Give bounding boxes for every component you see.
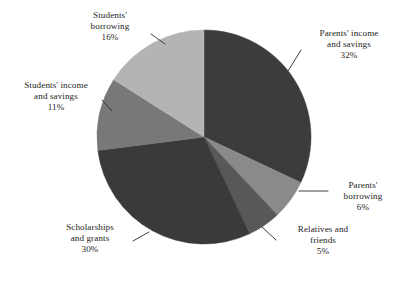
slice-label-line2: and savings — [303, 39, 395, 50]
leader-line-relatives-friends — [262, 227, 276, 240]
slice-value: 32% — [303, 50, 395, 61]
slice-label-students-borrowing: Students' borrowing 16% — [72, 10, 148, 44]
slice-label-parents-borrowing: Parents' borrowing 6% — [330, 180, 396, 214]
slice-label-scholarships-grants: Scholarships and grants 30% — [48, 222, 132, 256]
slice-value: 5% — [281, 246, 365, 257]
slice-label-line2: and grants — [48, 233, 132, 244]
leader-line-parents-income — [288, 50, 301, 71]
slice-label-line1: Students' — [72, 10, 148, 21]
slice-label-parents-income: Parents' income and savings 32% — [303, 28, 395, 62]
slice-label-line1: Parents' — [330, 180, 396, 191]
slice-label-line1: Parents' income — [303, 28, 395, 39]
leader-line-scholarships-grants — [133, 232, 149, 241]
slice-value: 16% — [72, 32, 148, 43]
slice-label-students-income: Students' income and savings 11% — [8, 80, 104, 114]
pie-chart-figure: Parents' income and savings 32% Parents'… — [0, 0, 398, 282]
slice-value: 11% — [8, 102, 104, 113]
slice-label-line2: and savings — [8, 91, 104, 102]
slice-label-line1: Relatives and — [281, 224, 365, 235]
slice-label-relatives-friends: Relatives and friends 5% — [281, 224, 365, 258]
slice-label-line1: Students' income — [8, 80, 104, 91]
slice-label-line2: borrowing — [330, 191, 396, 202]
slice-value: 6% — [330, 202, 396, 213]
slice-label-line2: friends — [281, 235, 365, 246]
slice-label-line2: borrowing — [72, 21, 148, 32]
slice-value: 30% — [48, 244, 132, 255]
pie-slice-group — [97, 30, 311, 244]
slice-label-line1: Scholarships — [48, 222, 132, 233]
